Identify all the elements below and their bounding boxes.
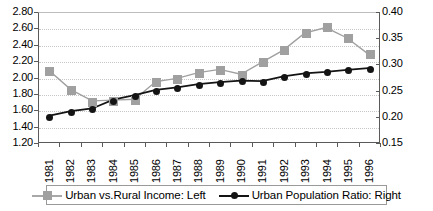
right-axis-tick-mark <box>376 12 380 13</box>
left-axis-tick-label: 2.80 <box>12 6 33 17</box>
plot-area <box>38 12 380 143</box>
x-axis-tick-mark <box>59 143 60 147</box>
data-point-marker <box>324 69 331 76</box>
right-axis-tick-mark <box>376 117 380 118</box>
data-point-marker <box>153 88 160 95</box>
x-axis-tick-label-text: 1991 <box>256 159 268 183</box>
x-axis-tick-label-text: 1986 <box>150 159 162 183</box>
x-axis-tick-label-text: 1995 <box>342 159 354 183</box>
left-axis-tick-label: 2.40 <box>12 39 33 50</box>
right-axis-tick-label: 0.25 <box>382 85 403 96</box>
x-axis-tick-mark <box>295 143 296 147</box>
x-axis-tick-label-text: 1989 <box>214 159 226 183</box>
right-axis-tick-mark <box>376 143 380 144</box>
left-axis-tick-mark <box>34 61 38 62</box>
x-axis-tick-mark <box>81 143 82 147</box>
data-point-marker <box>88 98 97 107</box>
x-axis-tick-label-text: 1984 <box>107 159 119 183</box>
legend-label: Urban vs.Rural Income: Left <box>65 189 205 201</box>
x-axis-tick-mark <box>380 143 381 147</box>
left-axis-tick-mark <box>34 45 38 46</box>
legend-label: Urban Population Ratio: Right <box>252 189 401 201</box>
x-axis-tick-mark <box>209 143 210 147</box>
right-axis-tick-label: 0.35 <box>382 32 403 43</box>
right-axis-tick-label: 0.15 <box>382 137 403 148</box>
left-axis-tick-mark <box>34 28 38 29</box>
x-axis-tick-mark <box>102 143 103 147</box>
right-axis-tick-label: 0.20 <box>382 111 403 122</box>
data-point-marker <box>173 75 182 84</box>
data-point-marker <box>152 78 161 87</box>
left-axis-tick-label: 1.20 <box>12 137 33 148</box>
data-point-marker <box>323 23 332 32</box>
data-point-marker <box>302 29 311 38</box>
data-point-marker <box>367 66 374 73</box>
left-axis-tick-mark <box>34 110 38 111</box>
x-axis-tick-mark <box>38 143 39 147</box>
right-axis-tick-mark <box>376 91 380 92</box>
left-axis-tick-label: 1.40 <box>12 121 33 132</box>
x-axis-tick-mark <box>124 143 125 147</box>
left-axis-tick-label: 2.60 <box>12 22 33 33</box>
dual-axis-line-chart: 2.802.602.402.202.001.801.601.401.20 0.4… <box>0 0 433 211</box>
circle-marker <box>219 190 249 201</box>
x-axis-tick-mark <box>316 143 317 147</box>
data-point-marker <box>195 69 204 78</box>
x-axis-tick-mark <box>188 143 189 147</box>
data-point-marker <box>259 58 268 67</box>
right-axis-tick-mark <box>376 64 380 65</box>
data-point-marker <box>110 98 117 105</box>
left-axis-tick-label: 2.00 <box>12 72 33 83</box>
square-marker <box>32 190 62 201</box>
x-axis-tick-label-text: 1996 <box>363 159 375 183</box>
data-point-marker <box>196 82 203 89</box>
x-axis-tick-mark <box>230 143 231 147</box>
right-axis-tick-mark <box>376 38 380 39</box>
data-point-marker <box>303 71 310 78</box>
left-axis-tick-mark <box>34 143 38 144</box>
data-point-marker <box>217 80 224 87</box>
data-point-marker <box>174 85 181 92</box>
chart-legend: Urban vs.Rural Income: LeftUrban Populat… <box>46 185 387 205</box>
right-axis-tick-label: 0.40 <box>382 6 403 17</box>
data-point-marker <box>260 79 267 86</box>
data-point-marker <box>239 78 246 85</box>
data-point-marker <box>67 86 76 95</box>
data-point-marker <box>366 50 375 59</box>
x-axis-tick-label-text: 1983 <box>85 159 97 183</box>
data-point-marker <box>132 93 139 100</box>
data-point-marker <box>281 74 288 81</box>
x-axis-tick-mark <box>273 143 274 147</box>
data-point-marker <box>68 109 75 116</box>
x-axis-tick-mark <box>166 143 167 147</box>
left-axis-tick-label: 2.20 <box>12 55 33 66</box>
x-axis-tick-label-text: 1981 <box>43 159 55 183</box>
data-point-marker <box>216 66 225 75</box>
legend-entry-2[interactable]: Urban Population Ratio: Right <box>219 189 401 201</box>
x-axis-tick-label-text: 1992 <box>278 159 290 183</box>
left-axis-tick-mark <box>34 94 38 95</box>
x-axis-tick-mark <box>337 143 338 147</box>
left-axis-tick-mark <box>34 12 38 13</box>
data-point-marker <box>280 46 289 55</box>
x-axis-tick-label-text: 1982 <box>64 159 76 183</box>
x-axis-tick-label-text: 1994 <box>321 159 333 183</box>
left-axis-tick-mark <box>34 78 38 79</box>
right-axis-tick-label: 0.30 <box>382 58 403 69</box>
data-point-marker <box>45 67 54 76</box>
data-point-marker <box>89 106 96 113</box>
left-axis-tick-label: 1.60 <box>12 104 33 115</box>
x-axis-tick-label-text: 1985 <box>128 159 140 183</box>
x-axis-tick-mark <box>252 143 253 147</box>
left-axis-tick-label: 1.80 <box>12 88 33 99</box>
x-axis-tick-mark <box>145 143 146 147</box>
legend-entry-1[interactable]: Urban vs.Rural Income: Left <box>32 189 205 201</box>
x-axis-tick-label-text: 1993 <box>299 159 311 183</box>
left-axis-tick-mark <box>34 127 38 128</box>
x-axis-tick-label-text: 1987 <box>171 159 183 183</box>
x-axis-tick-label-text: 1988 <box>192 159 204 183</box>
data-point-marker <box>345 67 352 74</box>
x-axis-tick-label-text: 1990 <box>235 159 247 183</box>
x-axis-tick-mark <box>359 143 360 147</box>
data-point-marker <box>344 34 353 43</box>
